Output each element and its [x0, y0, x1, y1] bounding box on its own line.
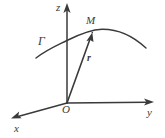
y-axis-line [67, 102, 147, 103]
z-axis [63, 3, 70, 103]
point-m-marker [92, 32, 94, 34]
position-vector-r [67, 33, 94, 104]
curve-gamma-label: Γ [38, 35, 45, 47]
z-axis-label: z [56, 2, 60, 13]
space-curve-gamma [36, 29, 146, 58]
y-axis [67, 98, 154, 105]
y-axis-label: y [147, 107, 152, 118]
x-axis-line [18, 103, 67, 117]
origin-label: O [62, 104, 70, 115]
figure-canvas: z y x M Γ r O [0, 0, 165, 138]
x-axis [11, 103, 67, 119]
coordinate-system-svg [0, 0, 165, 138]
x-axis-label: x [14, 123, 19, 134]
position-vector-line [67, 39, 90, 104]
point-m-label: M [86, 15, 95, 26]
x-axis-arrowhead [11, 112, 22, 119]
vector-r-label: r [87, 53, 91, 63]
